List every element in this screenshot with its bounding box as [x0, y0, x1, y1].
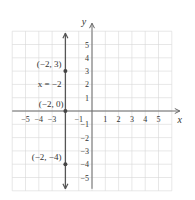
y-tick-label: 4 [85, 54, 89, 63]
y-tick-label: −1 [80, 120, 89, 129]
point-label-origin: (−2, 0) [39, 99, 64, 109]
y-tick-label: −4 [80, 160, 89, 169]
y-tick-label: −3 [80, 147, 89, 156]
y-tick-label: 5 [85, 41, 89, 50]
x-tick-label: −3 [48, 115, 57, 124]
y-tick-label: −2 [80, 134, 89, 143]
point-label-bottom: (−2, −4) [32, 152, 62, 162]
x-tick-label: 3 [130, 115, 134, 124]
y-tick-label: 2 [85, 80, 89, 89]
y-tick-label: 1 [85, 94, 89, 103]
x-tick-label: 4 [143, 115, 147, 124]
coordinate-plane: −5−4−3−11234554321−1−2−3−4−5 x y x = −2 … [0, 0, 195, 200]
line-equation-label: x = −2 [38, 79, 62, 89]
data-point [63, 109, 67, 113]
x-tick-label: 2 [117, 115, 121, 124]
x-axis-label: x [177, 114, 183, 125]
y-tick-label: −5 [80, 174, 89, 183]
y-tick-label: 3 [85, 67, 89, 76]
x-tick-label: −4 [35, 115, 44, 124]
x-tick-label: −5 [21, 115, 30, 124]
y-axis-label: y [81, 16, 87, 27]
data-point [63, 69, 67, 73]
x-tick-label: 5 [157, 115, 161, 124]
data-point [63, 162, 67, 166]
x-tick-label: 1 [103, 115, 107, 124]
point-label-top: (−2, 3) [37, 59, 62, 69]
